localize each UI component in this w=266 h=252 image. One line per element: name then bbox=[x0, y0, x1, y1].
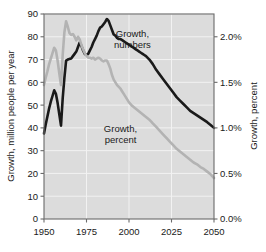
population-growth-chart: 0102030405060708090 0.0%0.5%1.0%1.5%2.0%… bbox=[0, 0, 266, 252]
left-tick-label: 0 bbox=[33, 213, 38, 224]
annotation-label-growth-numbers: Growth,numbers bbox=[114, 28, 151, 50]
left-tick-label: 20 bbox=[27, 168, 38, 179]
left-tick-label: 60 bbox=[27, 77, 38, 88]
x-tick-label: 2050 bbox=[203, 226, 224, 237]
right-tick-label: 2.0% bbox=[220, 31, 242, 42]
right-tick-label: 1.5% bbox=[220, 77, 242, 88]
x-tick-label: 1950 bbox=[33, 226, 54, 237]
left-tick-label: 10 bbox=[27, 191, 38, 202]
right-tick-label: 0.0% bbox=[220, 213, 242, 224]
x-tick-label: 2000 bbox=[118, 226, 139, 237]
left-tick-label: 40 bbox=[27, 122, 38, 133]
y-axis-title-right: Growth, percent bbox=[248, 82, 259, 150]
left-tick-label: 30 bbox=[27, 145, 38, 156]
left-tick-label: 50 bbox=[27, 100, 38, 111]
left-tick-label: 70 bbox=[27, 54, 38, 65]
left-tick-label: 90 bbox=[27, 8, 38, 19]
x-tick-label: 2025 bbox=[161, 226, 182, 237]
right-tick-label: 0.5% bbox=[220, 168, 242, 179]
x-tick-label: 1975 bbox=[76, 226, 97, 237]
annotation-label-growth-percent: Growth,percent bbox=[104, 123, 137, 145]
chart-canvas: 0102030405060708090 0.0%0.5%1.0%1.5%2.0%… bbox=[0, 0, 266, 252]
right-tick-label: 1.0% bbox=[220, 122, 242, 133]
left-tick-label: 80 bbox=[27, 31, 38, 42]
y-axis-title-left: Growth, million people per year bbox=[5, 50, 16, 181]
